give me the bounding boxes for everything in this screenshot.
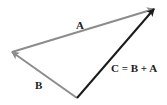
vector-a-label: A	[76, 19, 84, 31]
vector-addition-diagram: A B C = B + A	[0, 0, 167, 105]
vector-c-arrow	[77, 9, 154, 98]
vector-b-label: B	[35, 79, 43, 91]
vector-c-label: C = B + A	[111, 62, 157, 74]
vector-b-arrow	[12, 52, 77, 98]
